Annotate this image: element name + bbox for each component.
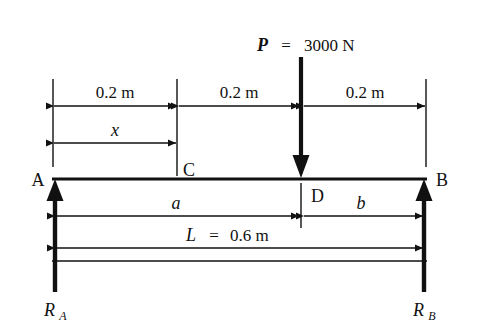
reaction-label-rb: R B <box>412 300 436 323</box>
reaction-rb-symbol: R <box>412 300 424 320</box>
point-label-c: C <box>183 160 195 180</box>
reaction-arrow-a <box>47 179 64 292</box>
point-label-a: A <box>32 170 45 190</box>
reaction-ra-symbol: R <box>43 300 55 320</box>
reaction-b-head <box>416 179 433 201</box>
dimension-label-0-2m-first: 0.2 m <box>96 83 135 102</box>
dimension-label-b: b <box>357 193 366 213</box>
dimension-label-0-2m-third: 0.2 m <box>346 83 385 102</box>
load-symbol-p: P <box>256 35 269 55</box>
dimension-label-a: a <box>172 193 181 213</box>
point-label-b: B <box>436 170 448 190</box>
reaction-rb-subscript: B <box>428 309 436 323</box>
span-dimension-label: L = 0.6 m <box>185 225 269 245</box>
load-arrow-p <box>293 57 310 178</box>
dimension-label-x: x <box>110 120 119 140</box>
point-label-d: D <box>311 186 324 206</box>
load-equals-sign: = <box>281 36 291 55</box>
reaction-a-head <box>47 179 64 201</box>
load-arrow-head <box>293 155 310 178</box>
span-value: 0.6 m <box>230 226 269 245</box>
dimension-label-0-2m-second: 0.2 m <box>220 83 259 102</box>
span-symbol-l: L <box>185 225 196 245</box>
reaction-ra-subscript: A <box>58 309 67 323</box>
load-label-p: P = 3000 N <box>256 35 355 55</box>
span-equals-sign: = <box>209 226 219 245</box>
beam-diagram-canvas: 0.2 m 0.2 m 0.2 m x P = 3000 N A B C D <box>0 0 479 332</box>
load-magnitude-value: 3000 N <box>304 36 355 55</box>
reaction-label-ra: R A <box>43 300 67 323</box>
reaction-arrow-b <box>416 179 433 292</box>
beam-body <box>52 179 427 261</box>
beam-diagram: 0.2 m 0.2 m 0.2 m x P = 3000 N A B C D <box>0 0 479 332</box>
